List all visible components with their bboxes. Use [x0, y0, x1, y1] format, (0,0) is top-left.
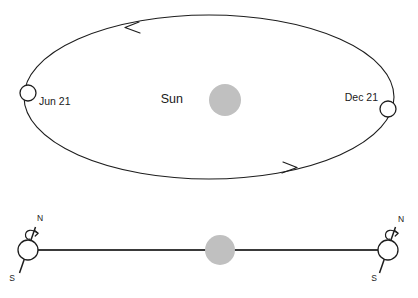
- orbit-panel: Sun Jun 21 Dec 21: [20, 15, 396, 179]
- side-panel: N S N S: [9, 213, 404, 283]
- sun-circle-side-view: [205, 235, 235, 265]
- earth-left: N S: [9, 213, 43, 283]
- june-solstice-label: Jun 21: [39, 95, 71, 107]
- december-solstice-label: Dec 21: [345, 91, 378, 103]
- earth-right-north-label: N: [398, 214, 404, 224]
- sun-circle-orbit-view: [209, 84, 241, 116]
- december-solstice-position: Dec 21: [345, 91, 396, 117]
- sun-label: Sun: [161, 92, 183, 106]
- earth-right-globe: [378, 240, 398, 260]
- earth-right: N S: [371, 214, 404, 283]
- orbit-ellipse: [24, 15, 394, 179]
- june-solstice-position: Jun 21: [20, 85, 71, 107]
- earth-marker-june: [20, 85, 36, 101]
- diagram-canvas: Sun Jun 21 Dec 21: [0, 0, 418, 298]
- earth-left-globe: [18, 240, 38, 260]
- earth-right-south-label: S: [371, 273, 377, 283]
- orbit-diagram: Sun Jun 21 Dec 21: [0, 0, 418, 298]
- earth-marker-december: [380, 101, 396, 117]
- earth-left-north-label: N: [37, 213, 43, 223]
- earth-left-south-label: S: [9, 273, 15, 283]
